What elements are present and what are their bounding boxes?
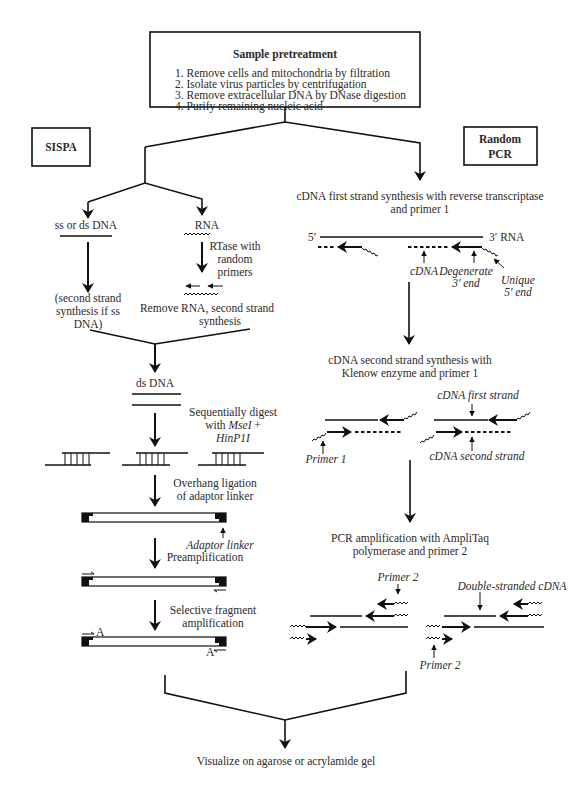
svg-text:5′: 5′ bbox=[308, 231, 316, 243]
first-strand-label-2: and primer 1 bbox=[391, 203, 450, 216]
remove-rna-label-1: Remove RNA, second strand bbox=[140, 302, 274, 315]
ligation-label-2: of adaptor linker bbox=[177, 490, 254, 503]
pretreatment-title: Sample pretreatment bbox=[233, 48, 337, 61]
random-primer-arrows bbox=[184, 286, 223, 295]
preamplification-label: Preamplification bbox=[167, 551, 244, 564]
svg-text:PCR: PCR bbox=[488, 148, 512, 160]
ss-or-ds-dna-label: ss or ds DNA bbox=[55, 219, 118, 231]
digested-fragments bbox=[45, 453, 264, 465]
pretreatment-box: Sample pretreatment 1. Remove cells and … bbox=[150, 32, 420, 113]
primer2-bottom-label: Primer 2 bbox=[418, 659, 460, 671]
ligated-fragment bbox=[82, 513, 226, 522]
preamp-fragment bbox=[82, 572, 226, 592]
cdna-first-strand-label: cDNA first strand bbox=[437, 389, 519, 402]
selective-fragment: A A bbox=[82, 626, 226, 658]
rtase-label-2: random bbox=[217, 253, 252, 265]
rna-label: RNA bbox=[195, 219, 220, 231]
cdna-second-strand-label: cDNA second strand bbox=[430, 450, 525, 462]
degenerate-label-2: 3′ end bbox=[451, 277, 480, 289]
first-strand-diagram: 5′ 3′ RNA bbox=[308, 231, 525, 268]
digest-label-1: Sequentially digest bbox=[189, 406, 278, 419]
svg-text:Random: Random bbox=[479, 133, 522, 145]
second-strand-note-2: synthesis if ss bbox=[56, 305, 120, 318]
sispa-label-box: SISPA bbox=[32, 128, 90, 166]
digest-label-2: with MseI + bbox=[205, 419, 261, 431]
random-pcr-label-box: Random PCR bbox=[464, 127, 537, 165]
pcr-amplification-diagram bbox=[290, 584, 544, 658]
double-stranded-label: Double-stranded cDNA bbox=[457, 580, 568, 592]
selective-base-bottom: A bbox=[206, 646, 215, 658]
svg-text:SISPA: SISPA bbox=[45, 141, 77, 153]
digest-label-3: HinP1I bbox=[215, 432, 251, 444]
second-strand-diagram bbox=[312, 404, 530, 454]
merge-connector bbox=[90, 329, 250, 344]
final-merge-connector bbox=[165, 671, 406, 720]
rtase-label-1: RTase with bbox=[209, 240, 260, 252]
primer2-top-label: Primer 2 bbox=[376, 571, 418, 583]
workflow-diagram: Sample pretreatment 1. Remove cells and … bbox=[0, 0, 587, 792]
first-strand-label-1: cDNA first strand synthesis with reverse… bbox=[296, 190, 543, 203]
remove-rna-label-2: synthesis bbox=[199, 315, 242, 328]
ds-dna-label: ds DNA bbox=[136, 377, 175, 389]
unique-label-2: 5′ end bbox=[504, 286, 532, 298]
second-strand-note-3: DNA) bbox=[74, 318, 103, 331]
second-strand-label-2: Klenow enzyme and primer 1 bbox=[342, 367, 479, 380]
second-strand-label-1: cDNA second strand synthesis with bbox=[328, 354, 492, 367]
ligation-label-1: Overhang ligation bbox=[173, 477, 257, 490]
second-strand-note-1: (second strand bbox=[55, 292, 122, 305]
sispa-branch-split bbox=[88, 183, 202, 218]
selective-base-top: A bbox=[96, 626, 105, 638]
selective-label-1: Selective fragment bbox=[170, 604, 257, 617]
svg-text:3′ RNA: 3′ RNA bbox=[489, 231, 525, 243]
top-split-connector bbox=[145, 107, 420, 183]
cdna-label: cDNA bbox=[410, 265, 439, 277]
pcr-amp-label-1: PCR amplification with AmpliTaq bbox=[331, 532, 489, 545]
rna-wavy-strand bbox=[184, 233, 210, 235]
rtase-label-3: primers bbox=[217, 266, 253, 279]
pcr-amp-label-2: polymerase and primer 2 bbox=[353, 545, 468, 558]
selective-label-2: amplification bbox=[182, 617, 244, 630]
primer1-label: Primer 1 bbox=[304, 453, 346, 465]
pretreatment-step-4: 4. Purify remaining nucleic acid bbox=[175, 100, 323, 113]
final-step-label: Visualize on agarose or acrylamide gel bbox=[197, 755, 375, 768]
